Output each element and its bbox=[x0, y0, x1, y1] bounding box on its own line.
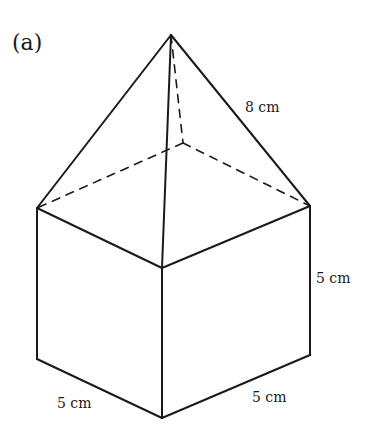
part-label: (a) bbox=[12, 30, 42, 55]
cube-pyramid-diagram: (a) 8 cm 5 cm 5 cm 5 cm bbox=[0, 0, 376, 448]
hidden-edge-apex-back bbox=[171, 35, 183, 143]
slant-edge-label: 8 cm bbox=[245, 99, 279, 115]
cube-right-edge-label: 5 cm bbox=[252, 389, 286, 405]
cube-bottom-right-edge bbox=[162, 355, 310, 418]
pyramid-edge-left bbox=[37, 35, 171, 208]
pyramid-edge-right bbox=[171, 35, 310, 206]
cube-height-label: 5 cm bbox=[316, 270, 350, 286]
cube-left-edge-label: 5 cm bbox=[57, 395, 91, 411]
hidden-edge-back-left bbox=[37, 143, 183, 208]
hidden-edge-back-right bbox=[183, 143, 310, 206]
cube-bottom-left-edge bbox=[37, 359, 162, 418]
cube-top-left-edge bbox=[37, 208, 162, 268]
cube-top-right-edge bbox=[162, 206, 310, 268]
